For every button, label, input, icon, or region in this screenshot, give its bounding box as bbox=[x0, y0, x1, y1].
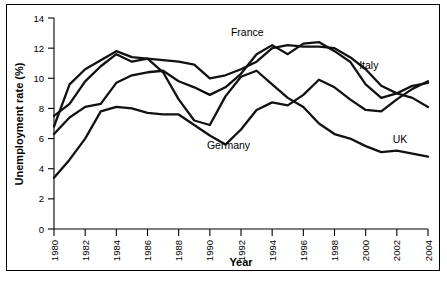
x-tick-label: 1990 bbox=[204, 240, 215, 261]
x-tick-label: 2002 bbox=[391, 240, 402, 261]
unemployment-line-chart: 02468101214 Unemployment rate (%) 198019… bbox=[7, 5, 439, 270]
y-tick-label: 0 bbox=[39, 224, 44, 235]
y-tick-label: 6 bbox=[39, 133, 44, 144]
y-tick-label: 2 bbox=[39, 193, 44, 204]
x-tick-label: 1986 bbox=[142, 240, 153, 261]
x-tick-label: 1998 bbox=[329, 240, 340, 261]
x-axis-title: Year bbox=[229, 256, 253, 268]
x-tick-label: 2000 bbox=[360, 240, 371, 261]
series-label-uk: UK bbox=[393, 133, 408, 145]
x-tick-marks bbox=[54, 229, 428, 236]
x-tick-label: 1988 bbox=[173, 240, 184, 261]
y-tick-label: 10 bbox=[33, 73, 44, 84]
series-line-germany bbox=[54, 80, 428, 178]
x-axis: 1980198219841986198819901992199419961998… bbox=[49, 229, 434, 268]
y-tick-labels: 02468101214 bbox=[33, 13, 44, 235]
y-axis: 02468101214 Unemployment rate (%) bbox=[13, 13, 54, 235]
y-axis-title: Unemployment rate (%) bbox=[13, 62, 25, 185]
y-tick-label: 8 bbox=[39, 103, 44, 114]
chart-frame: 02468101214 Unemployment rate (%) 198019… bbox=[6, 4, 440, 271]
x-tick-label: 1994 bbox=[267, 240, 278, 261]
series-label-france: France bbox=[231, 26, 264, 38]
x-tick-label: 2004 bbox=[423, 240, 434, 261]
figure-container: 02468101214 Unemployment rate (%) 198019… bbox=[0, 0, 447, 291]
x-tick-label: 1996 bbox=[298, 240, 309, 261]
y-tick-label: 12 bbox=[33, 43, 44, 54]
series-label-germany: Germany bbox=[207, 139, 251, 151]
series-label-italy: Italy bbox=[359, 59, 379, 71]
y-tick-label: 4 bbox=[39, 163, 44, 174]
x-tick-label: 1984 bbox=[111, 240, 122, 261]
y-tick-marks bbox=[48, 18, 54, 229]
x-tick-label: 1982 bbox=[80, 240, 91, 261]
y-tick-label: 14 bbox=[33, 13, 44, 24]
x-tick-label: 1980 bbox=[49, 240, 60, 261]
